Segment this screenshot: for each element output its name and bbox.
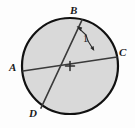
vertex-label-b: B (70, 5, 77, 16)
geometry-figure: A B C D 1 (0, 0, 135, 128)
angle-1-label: 1 (83, 34, 88, 44)
vertex-label-c: C (119, 47, 126, 58)
circle-diagram-canvas (0, 0, 135, 128)
vertex-label-a: A (9, 62, 16, 73)
vertex-label-d: D (29, 108, 37, 119)
